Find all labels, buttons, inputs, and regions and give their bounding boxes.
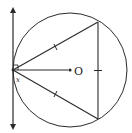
tangent-point xyxy=(12,69,15,72)
angle-label: x xyxy=(16,76,20,84)
center-label: O xyxy=(74,65,83,78)
center-point xyxy=(68,68,71,71)
geometry-diagram: O x xyxy=(0,0,132,133)
